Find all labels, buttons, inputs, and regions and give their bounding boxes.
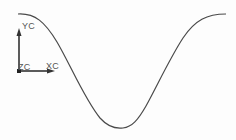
yc-label: YC — [22, 22, 35, 31]
graphics-viewport[interactable]: YC ZC XC — [0, 0, 236, 140]
xc-label: XC — [46, 62, 59, 71]
curve-canvas — [0, 0, 236, 140]
zc-label: ZC — [18, 63, 30, 72]
yc-arrow-icon — [17, 28, 22, 36]
